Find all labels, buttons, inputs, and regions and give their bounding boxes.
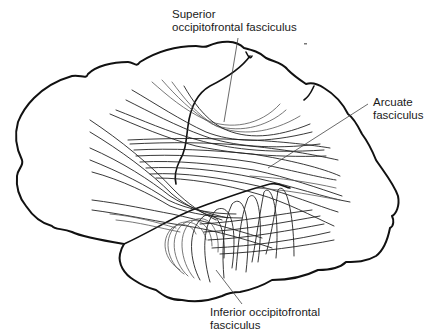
speck-mark: [304, 43, 307, 45]
label-arcuate-line2: fasciculus: [373, 109, 424, 122]
arcuate-leader-line: [268, 104, 368, 168]
superior-fiber-group: [110, 80, 326, 156]
superior-leader-line: [224, 38, 238, 122]
arcuate-fiber-group: [128, 139, 350, 227]
label-superior-line2: occipitofrontal fasciculus: [172, 21, 297, 34]
label-inferior-line2: fasciculus: [210, 319, 320, 332]
brain-fasciculi-diagram: [0, 0, 432, 335]
label-superior-occipitofrontal-fasciculus: Superior occipitofrontal fasciculus: [172, 8, 297, 34]
label-inferior-line1: Inferior occipitofrontal: [210, 306, 320, 319]
inferior-leader-line: [216, 270, 242, 304]
cerebral-hemisphere-outline: [16, 42, 399, 301]
central-sulcus-notch: [246, 52, 252, 58]
parietal-sulcus-line: [304, 86, 314, 100]
label-arcuate-fasciculus: Arcuate fasciculus: [373, 96, 424, 122]
label-inferior-occipitofrontal-fasciculus: Inferior occipitofrontal fasciculus: [210, 306, 320, 332]
label-arcuate-line1: Arcuate: [373, 96, 424, 109]
label-superior-line1: Superior: [172, 8, 297, 21]
inferior-fiber-group: [90, 120, 272, 248]
lateral-sulcus-line: [124, 184, 290, 244]
